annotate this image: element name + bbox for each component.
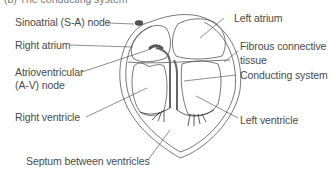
label-av-node-line1: Atrioventricular bbox=[15, 66, 83, 78]
label-left-atrium: Left atrium bbox=[234, 12, 283, 24]
label-fibrous-line2: tissue bbox=[240, 54, 267, 66]
av-node bbox=[150, 46, 162, 48]
purkinje-fibers bbox=[140, 108, 214, 126]
label-conducting-system: Conducting system bbox=[240, 69, 328, 81]
heart-outline bbox=[120, 15, 241, 158]
label-av-node-line2: (A-V) node bbox=[15, 79, 65, 91]
label-left-ventricle: Left ventricle bbox=[240, 114, 298, 126]
sa-node bbox=[135, 21, 143, 26]
label-sa-node: Sinoatrial (S-A) node bbox=[15, 16, 110, 28]
label-right-ventricle: Right ventricle bbox=[15, 111, 80, 123]
label-septum: Septum between ventricles bbox=[26, 155, 150, 167]
leader-lines bbox=[70, 18, 238, 160]
label-fibrous-line1: Fibrous connective bbox=[240, 40, 326, 52]
label-right-atrium: Right atrium bbox=[15, 39, 70, 51]
